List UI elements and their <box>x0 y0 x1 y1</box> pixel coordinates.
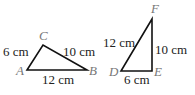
vertex-e-label: E <box>153 64 162 79</box>
triangles-diagram: A C B 6 cm 10 cm 12 cm D E F 12 cm 10 cm… <box>0 0 195 95</box>
side-ac-label: 6 cm <box>3 44 29 59</box>
side-de-label: 6 cm <box>124 72 150 87</box>
side-df-label: 12 cm <box>103 35 135 50</box>
triangle-abc: A C B 6 cm 10 cm 12 cm <box>3 28 97 87</box>
side-ef-label: 10 cm <box>155 42 187 57</box>
vertex-c-label: C <box>39 28 48 43</box>
vertex-d-label: D <box>108 64 119 79</box>
triangle-def: D E F 12 cm 10 cm 6 cm <box>103 1 187 87</box>
vertex-a-label: A <box>15 63 24 78</box>
side-cb-label: 10 cm <box>63 44 95 59</box>
side-ab-label: 12 cm <box>42 72 74 87</box>
vertex-f-label: F <box>150 1 160 16</box>
vertex-b-label: B <box>89 63 97 78</box>
